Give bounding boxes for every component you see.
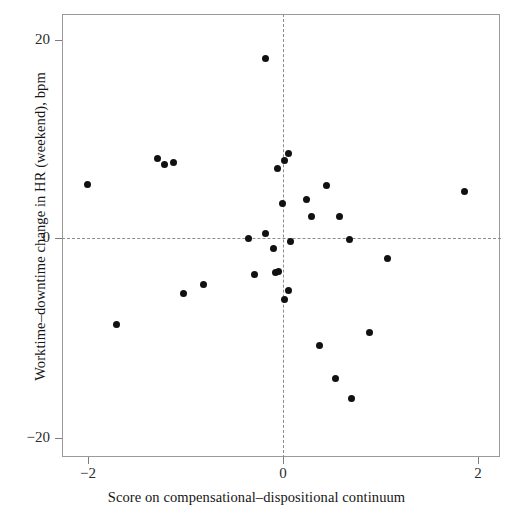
reference-line-horizontal-zero [62, 238, 501, 239]
data-point [316, 342, 323, 349]
data-point [180, 290, 187, 297]
data-point [270, 245, 277, 252]
data-point [279, 200, 286, 207]
data-point [84, 181, 91, 188]
x-tick-label-2: 2 [458, 466, 498, 481]
data-point [461, 188, 468, 195]
data-point [262, 55, 269, 62]
reference-line-vertical-zero [283, 14, 284, 458]
scatter-plot-figure: 20 0 −20 −2 0 2 Score on compensational–… [0, 0, 513, 517]
data-point [332, 375, 339, 382]
x-tick-label-0: 0 [263, 466, 303, 481]
data-point [308, 213, 315, 220]
data-point [348, 395, 355, 402]
x-tick-2 [478, 457, 479, 464]
x-tick-minus-2 [88, 457, 89, 464]
x-axis-title: Score on compensational–dispositional co… [0, 489, 513, 506]
data-point [200, 281, 207, 288]
y-tick-minus-20 [55, 438, 62, 439]
y-tick-20 [55, 40, 62, 41]
data-point [113, 321, 120, 328]
data-point [161, 161, 168, 168]
data-point [251, 271, 258, 278]
data-point [346, 236, 353, 243]
plot-frame [62, 14, 500, 457]
y-axis-title: Worktime–downtime change in HR (weekend)… [32, 7, 49, 447]
data-point [336, 213, 343, 220]
data-point [323, 182, 330, 189]
data-point [281, 296, 288, 303]
data-point [287, 238, 294, 245]
data-point [281, 157, 288, 164]
y-tick-0 [55, 238, 62, 239]
data-point [366, 329, 373, 336]
data-point [170, 159, 177, 166]
x-tick-label-minus-2: −2 [68, 466, 108, 481]
data-point [285, 287, 292, 294]
data-point [275, 268, 282, 275]
data-point [262, 230, 269, 237]
x-tick-0 [283, 457, 284, 464]
data-point [303, 196, 310, 203]
data-point [154, 155, 161, 162]
data-point [285, 150, 292, 157]
data-point [245, 235, 252, 242]
data-point [274, 165, 281, 172]
data-point [384, 255, 391, 262]
